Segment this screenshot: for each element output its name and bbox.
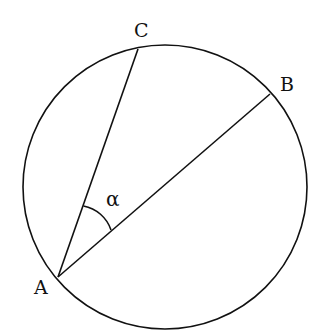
geometry-diagram: C B A α bbox=[0, 0, 324, 330]
point-label-c: C bbox=[134, 19, 149, 41]
angle-label-alpha: α bbox=[106, 187, 120, 211]
point-label-b: B bbox=[280, 73, 294, 95]
point-label-a: A bbox=[33, 276, 48, 298]
circle bbox=[23, 45, 307, 329]
